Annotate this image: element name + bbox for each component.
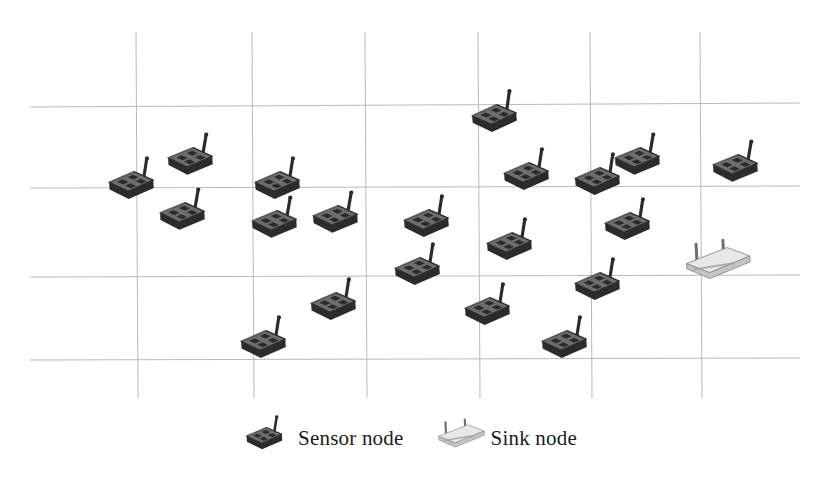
sensor-node (387, 240, 455, 298)
sensor-node (496, 145, 564, 203)
sink-node-icon (438, 420, 484, 456)
sensor-node (706, 137, 773, 194)
grid-line-vertical-3 (478, 32, 480, 398)
sensor-node (608, 130, 675, 187)
sensor-node (464, 86, 532, 145)
legend-item-sensor-node: Sensor node (245, 420, 403, 456)
grid-line-vertical-0 (136, 32, 138, 398)
network-deployment-figure: Sensor node Sink node (0, 0, 822, 479)
legend: Sensor node Sink node (0, 408, 822, 468)
sensor-node (233, 313, 301, 371)
sensor-node (153, 185, 220, 242)
sensor-node-icon (245, 420, 291, 456)
grid-line-horizontal-0 (30, 103, 800, 107)
legend-item-sink-node: Sink node (438, 420, 577, 456)
legend-label-sink-node: Sink node (491, 428, 577, 449)
sensor-node (534, 313, 602, 371)
sensor-node (161, 130, 228, 187)
sensor-node (303, 275, 371, 333)
sensor-node (597, 195, 665, 253)
grid-line-horizontal-3 (30, 358, 800, 360)
sensor-node (306, 188, 373, 245)
sensor-node (457, 280, 525, 338)
sensor-node (245, 193, 312, 250)
sensor-node (567, 255, 635, 313)
sensor-node (479, 215, 547, 273)
grid-line-vertical-5 (700, 32, 702, 398)
legend-label-sensor-node: Sensor node (298, 428, 403, 449)
sink-node (682, 234, 757, 290)
